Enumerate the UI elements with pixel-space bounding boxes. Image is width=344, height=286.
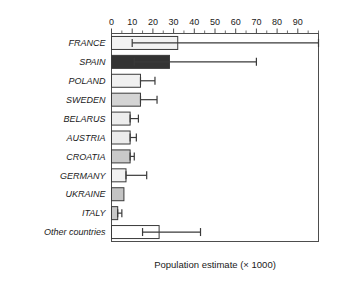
- bar-austria: [112, 131, 131, 144]
- category-label-spain: SPAIN: [79, 57, 106, 67]
- category-label-other-countries: Other countries: [44, 227, 106, 237]
- chart-canvas: 0102030405060708090 FRANCESPAINPOLANDSWE…: [0, 0, 344, 286]
- bar-sweden: [112, 93, 141, 106]
- bar-poland: [112, 74, 141, 87]
- category-label-austria: AUSTRIA: [65, 133, 105, 143]
- category-label-france: FRANCE: [68, 38, 106, 48]
- category-label-sweden: SWEDEN: [66, 95, 106, 105]
- bar-italy: [112, 207, 118, 220]
- category-label-germany: GERMANY: [60, 171, 107, 181]
- x-tick-label-50: 50: [210, 17, 220, 27]
- category-label-poland: POLAND: [68, 76, 106, 86]
- x-tick-label-70: 70: [251, 17, 261, 27]
- x-tick-label-90: 90: [293, 17, 303, 27]
- x-tick-label-10: 10: [127, 17, 137, 27]
- x-tick-label-30: 30: [169, 17, 179, 27]
- category-label-ukraine: UKRAINE: [65, 189, 106, 199]
- x-tick-label-60: 60: [231, 17, 241, 27]
- population-estimate-bar-chart: 0102030405060708090 FRANCESPAINPOLANDSWE…: [0, 0, 344, 286]
- bar-germany: [112, 169, 126, 182]
- category-label-italy: ITALY: [82, 208, 107, 218]
- bar-croatia: [112, 150, 131, 163]
- x-axis-title: Population estimate (× 1000): [154, 259, 276, 270]
- category-label-belarus: BELARUS: [63, 114, 105, 124]
- x-tick-label-40: 40: [189, 17, 199, 27]
- x-tick-label-0: 0: [109, 17, 114, 27]
- bar-belarus: [112, 112, 131, 125]
- category-label-croatia: CROATIA: [66, 152, 105, 162]
- bar-ukraine: [112, 188, 124, 201]
- x-tick-label-20: 20: [148, 17, 158, 27]
- x-tick-label-80: 80: [272, 17, 282, 27]
